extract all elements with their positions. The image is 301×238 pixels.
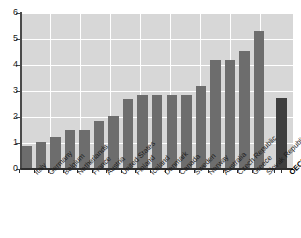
bar-czech-republic (225, 60, 236, 169)
y-axis-tick-label: 5 (0, 34, 18, 43)
y-axis-tick-label: 4 (0, 60, 18, 69)
bar-italy (21, 146, 32, 169)
y-axis-tick-label: 2 (0, 112, 18, 121)
y-axis-tick-label: 3 (0, 86, 18, 95)
x-axis-labels: ItalyGermanyBelgiumNetherlandsFranceAust… (0, 171, 301, 238)
y-axis-tick-label: 6 (0, 8, 18, 17)
bars-layer (21, 13, 293, 169)
y-axis-tick-label: 1 (0, 138, 18, 147)
bar-chart: 0123456 ItalyGermanyBelgiumNetherlandsFr… (0, 0, 301, 238)
